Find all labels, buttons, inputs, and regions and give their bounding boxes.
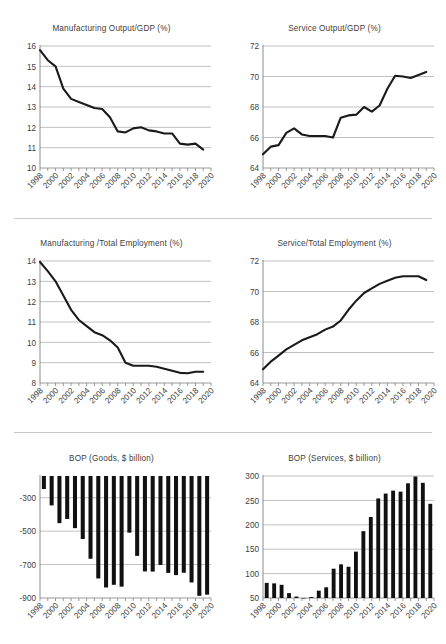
x-tick-label: 2018 (404, 386, 424, 406)
x-tick-label: 2002 (57, 601, 77, 621)
bar (406, 483, 410, 598)
x-tick-label: 2004 (72, 601, 92, 621)
x-tick-label: 2004 (295, 171, 315, 191)
y-tick-label: 150 (245, 545, 259, 554)
x-tick-label: 2006 (311, 171, 331, 191)
bar (112, 476, 116, 585)
bar (104, 476, 108, 587)
bar (376, 498, 380, 598)
y-tick-label: -500 (20, 527, 37, 536)
y-tick-label: 11 (28, 144, 37, 153)
x-tick-label: 2012 (357, 386, 377, 406)
y-tick-label: -900 (20, 594, 37, 603)
y-tick-label: 66 (250, 349, 260, 358)
chart-panel-manufacturing-output-gdp: Manufacturing Output/GDP (%) 10111213141… (0, 0, 223, 215)
bar (287, 593, 291, 598)
x-tick-label: 2018 (404, 171, 424, 191)
y-tick-label: 72 (250, 42, 260, 51)
bar (73, 476, 77, 528)
bar (265, 583, 269, 598)
figure-sheet: Manufacturing Output/GDP (%) 10111213141… (0, 0, 446, 644)
y-tick-label: 14 (27, 257, 37, 266)
x-tick-label: 2010 (342, 386, 362, 406)
bar (428, 504, 432, 598)
bar (65, 476, 69, 519)
y-tick-label: 8 (31, 379, 36, 388)
y-tick-label: 50 (250, 594, 260, 603)
x-tick-label: 2008 (326, 386, 346, 406)
chart-svg: 6466687072199820002002200420062008201020… (223, 215, 446, 430)
bar (302, 598, 306, 599)
plot-area-service-output-gdp: 6466687072199820002002200420062008201020… (223, 0, 446, 215)
x-tick-label: 2008 (103, 601, 123, 621)
x-tick-label: 2014 (150, 601, 170, 621)
bar (332, 569, 336, 598)
bar (182, 476, 186, 573)
x-tick-label: 2016 (389, 386, 409, 406)
y-tick-label: 70 (250, 73, 260, 82)
chart-panel-service-output-gdp: Service Output/GDP (%) 64666870721998200… (223, 0, 446, 215)
bar (57, 476, 61, 523)
bar (413, 476, 417, 598)
x-tick-label: 2004 (295, 601, 315, 621)
bar (190, 476, 194, 582)
chart-svg: 8910111213141998200020022004200620082010… (0, 215, 223, 430)
y-tick-label: 250 (245, 497, 259, 506)
x-tick-label: 2000 (264, 386, 284, 406)
x-tick-label: 2002 (57, 386, 77, 406)
chart-svg: 5010015020025030019982000200220042006200… (223, 430, 446, 644)
bar (143, 476, 147, 571)
x-tick-label: 2006 (88, 386, 108, 406)
x-tick-label: 2016 (166, 386, 186, 406)
x-tick-label: 2006 (88, 601, 108, 621)
x-tick-label: 2010 (119, 386, 139, 406)
y-tick-label: 72 (250, 257, 260, 266)
x-tick-label: 2014 (373, 171, 393, 191)
bar (347, 567, 351, 598)
plot-area-manufacturing-total-employment: 8910111213141998200020022004200620082010… (0, 215, 223, 430)
x-tick-label: 2000 (41, 601, 61, 621)
chart-grid: Manufacturing Output/GDP (%) 10111213141… (0, 0, 446, 644)
bar (309, 597, 313, 598)
x-tick-label: 2002 (280, 386, 300, 406)
bar (42, 476, 46, 489)
y-tick-label: 70 (250, 288, 260, 297)
panel-divider-bottom (14, 432, 432, 433)
y-tick-label: 68 (250, 318, 260, 327)
bar (205, 476, 209, 595)
y-tick-label: 10 (27, 339, 37, 348)
x-tick-label: 2000 (264, 601, 284, 621)
x-tick-label: 2004 (72, 171, 92, 191)
y-tick-label: 68 (250, 103, 260, 112)
bar (399, 492, 403, 598)
x-tick-label: 2020 (197, 601, 217, 621)
bar (174, 476, 178, 575)
bar (135, 476, 139, 556)
x-tick-label: 2010 (119, 601, 139, 621)
x-tick-label: 2012 (134, 386, 154, 406)
x-tick-label: 1998 (249, 171, 269, 191)
bar (280, 585, 284, 598)
y-tick-label: 13 (27, 103, 37, 112)
x-tick-label: 2016 (389, 601, 409, 621)
x-tick-label: 2014 (373, 386, 393, 406)
x-tick-label: 2004 (72, 386, 92, 406)
x-tick-label: 2020 (420, 601, 440, 621)
y-tick-label: 64 (250, 379, 260, 388)
x-tick-label: 2020 (420, 386, 440, 406)
bar (339, 564, 343, 598)
data-line (40, 50, 203, 150)
y-tick-label: 9 (31, 359, 36, 368)
bar (295, 597, 299, 598)
x-tick-label: 2020 (420, 171, 440, 191)
y-tick-label: 13 (27, 278, 37, 287)
bar (120, 476, 124, 587)
x-tick-label: 2006 (311, 386, 331, 406)
chart-panel-bop-services: BOP (Services, $ billion) 50100150200250… (223, 430, 446, 644)
plot-area-bop-services: 5010015020025030019982000200220042006200… (223, 430, 446, 644)
x-tick-label: 2012 (134, 601, 154, 621)
x-tick-label: 1998 (249, 386, 269, 406)
plot-area-service-total-employment: 6466687072199820002002200420062008201020… (223, 215, 446, 430)
y-tick-label: -700 (20, 561, 37, 570)
x-tick-label: 2008 (326, 171, 346, 191)
